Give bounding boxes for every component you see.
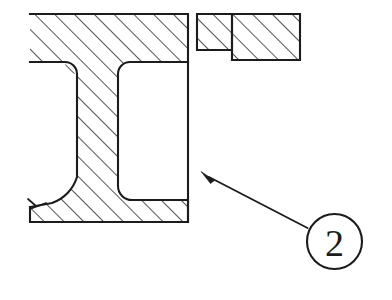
upper-right-large-block — [226, 6, 308, 68]
leader-arrow-head — [201, 172, 215, 184]
sectional-drawing: 2 — [0, 0, 392, 300]
main-channel-section — [20, 4, 210, 236]
callout-balloon[interactable]: 2 — [307, 214, 362, 269]
technical-drawing-canvas: 2 — [0, 0, 392, 300]
callout-leader — [201, 172, 308, 229]
main-section-hatch — [20, 4, 210, 236]
large-block-hatch — [226, 6, 308, 68]
balloon-number: 2 — [325, 222, 344, 264]
leader-line — [209, 177, 308, 228]
web-left-fillet-edge — [30, 62, 77, 207]
